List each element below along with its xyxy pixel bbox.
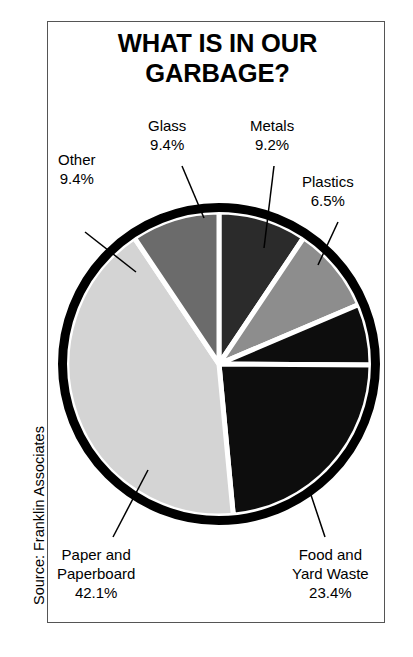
slice-label-food-name-1: Food and (292, 545, 369, 564)
page-title-line-1: WHAT IS IN OUR (60, 28, 375, 58)
slice-label-metals-percent: 9.2% (250, 135, 294, 154)
slice-label-glass: Glass 9.4% (148, 116, 186, 154)
slice-label-paper-percent: 42.1% (57, 583, 135, 602)
slice-label-paper-name-2: Paperboard (57, 564, 135, 583)
page-title: WHAT IS IN OUR GARBAGE? (60, 28, 375, 88)
slice-label-glass-name: Glass (148, 116, 186, 135)
slice-label-plastics-percent: 6.5% (302, 191, 354, 210)
garbage-composition-figure: WHAT IS IN OUR GARBAGE? Glass 9.4% Metal… (0, 0, 413, 657)
pie-slice (219, 364, 371, 515)
slice-label-food-percent: 23.4% (292, 583, 369, 602)
slice-label-other-name: Other (58, 150, 96, 169)
pie-slice-group (67, 212, 371, 516)
slice-label-paper-name-1: Paper and (57, 545, 135, 564)
slice-label-glass-percent: 9.4% (148, 135, 186, 154)
slice-label-metals-name: Metals (250, 116, 294, 135)
pie-chart (58, 203, 380, 525)
slice-label-paper: Paper and Paperboard 42.1% (57, 545, 135, 603)
slice-label-food-name-2: Yard Waste (292, 564, 369, 583)
source-credit: Source: Franklin Associates (31, 405, 47, 605)
page-title-line-2: GARBAGE? (60, 58, 375, 88)
slice-label-other-percent: 9.4% (58, 169, 96, 188)
pie-chart-svg (58, 203, 380, 525)
slice-label-metals: Metals 9.2% (250, 116, 294, 154)
slice-label-plastics: Plastics 6.5% (302, 172, 354, 210)
slice-label-other: Other 9.4% (58, 150, 96, 188)
slice-label-plastics-name: Plastics (302, 172, 354, 191)
slice-label-food: Food and Yard Waste 23.4% (292, 545, 369, 603)
